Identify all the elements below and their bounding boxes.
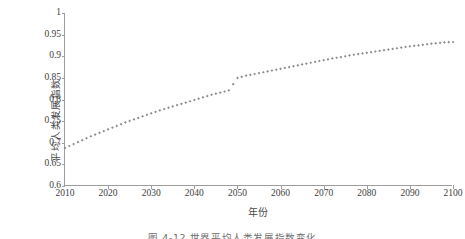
series-data-point [146,114,149,117]
series-data-point [158,109,161,112]
series-data-point [352,53,355,56]
series-data-point [292,65,295,68]
x-axis-tick-label: 2010 [56,185,75,199]
series-data-point [171,105,174,108]
series-data-point [128,120,131,123]
series-data-point [219,91,222,94]
series-data-point [365,51,368,54]
series-data-point [163,108,166,111]
plot-area: 10.950.90.850.80.750.70.650.620102020203… [64,13,452,186]
series-data-point [361,52,364,55]
series-data-point [258,72,261,75]
series-data-point [434,42,437,45]
series-data-point [271,69,274,72]
series-data-point [232,83,235,86]
series-data-point [253,73,256,76]
series-data-point [102,130,105,133]
series-data-point [90,135,93,138]
series-data-point [404,46,407,49]
series-data-point [340,56,343,59]
series-data-point [400,46,403,49]
y-axis-tick-mark [62,121,65,122]
series-data-point [167,106,170,109]
series-data-point [245,74,248,77]
y-axis-tick-mark [62,56,65,57]
y-axis-tick-mark [62,78,65,79]
series-data-point [357,53,360,56]
series-data-point [443,41,446,44]
series-data-point [344,55,347,58]
series-plot [65,13,453,186]
series-markers [64,41,455,150]
x-axis-tick-mark [108,185,109,189]
series-data-point [387,48,390,51]
series-data-point [115,125,118,128]
series-data-point [335,56,338,59]
x-axis-title: 年份 [64,204,452,219]
series-data-point [430,42,433,45]
series-data-point [447,41,450,44]
x-axis-tick-mark [237,185,238,189]
series-data-point [184,101,187,104]
y-axis-tick-mark [62,143,65,144]
series-data-point [77,141,80,144]
series-data-point [197,97,200,100]
series-data-point [409,45,412,48]
x-axis-tick-mark [410,185,411,189]
series-data-point [421,43,424,46]
x-axis-tick-mark [367,185,368,189]
series-data-point [296,64,299,67]
series-data-point [189,100,192,103]
series-data-point [107,128,110,131]
x-axis-tick-mark [324,185,325,189]
x-axis-tick-mark [194,185,195,189]
series-data-point [348,54,351,57]
y-axis-tick-mark [62,13,65,14]
series-data-point [370,51,373,54]
series-data-point [426,43,429,46]
series-data-point [279,67,282,70]
series-data-point [417,44,420,47]
series-data-point [124,121,127,124]
series-data-point [301,63,304,66]
series-data-point [98,131,101,134]
series-data-point [120,123,123,126]
series-data-point [318,60,321,63]
series-data-point [391,48,394,51]
series-data-point [262,71,265,74]
series-data-point [180,102,183,105]
series-data-point [236,77,239,80]
series-data-point [452,41,455,44]
series-data-point [137,117,140,120]
series-data-point [154,110,157,113]
series-data-point [81,139,84,142]
series-data-point [227,89,230,92]
series-data-point [327,58,330,61]
series-data-point [378,49,381,52]
series-data-point [94,133,97,136]
series-data-point [305,62,308,65]
series-data-point [284,67,287,70]
series-data-point [309,61,312,64]
series-data-point [210,93,213,96]
y-axis-tick-mark [62,35,65,36]
series-data-point [150,112,153,115]
series-data-point [202,96,205,99]
series-data-point [193,99,196,102]
series-data-point [240,75,243,78]
y-axis-tick-mark [62,164,65,165]
series-data-point [249,73,252,76]
series-data-point [331,57,334,60]
series-data-point [413,45,416,48]
y-axis-tick-mark [62,100,65,101]
figure-container: 平均人类发展指数 10.950.90.850.80.750.70.650.620… [0,0,465,239]
series-data-point [383,49,386,52]
figure-caption: 图 4-12 世界平均人类发展指数变化 [0,230,465,239]
series-data-point [322,59,325,62]
series-data-point [374,50,377,53]
series-data-point [176,104,179,107]
series-data-point [133,118,136,121]
series-data-point [68,145,71,148]
x-axis-tick-mark [281,185,282,189]
series-data-point [206,95,209,98]
